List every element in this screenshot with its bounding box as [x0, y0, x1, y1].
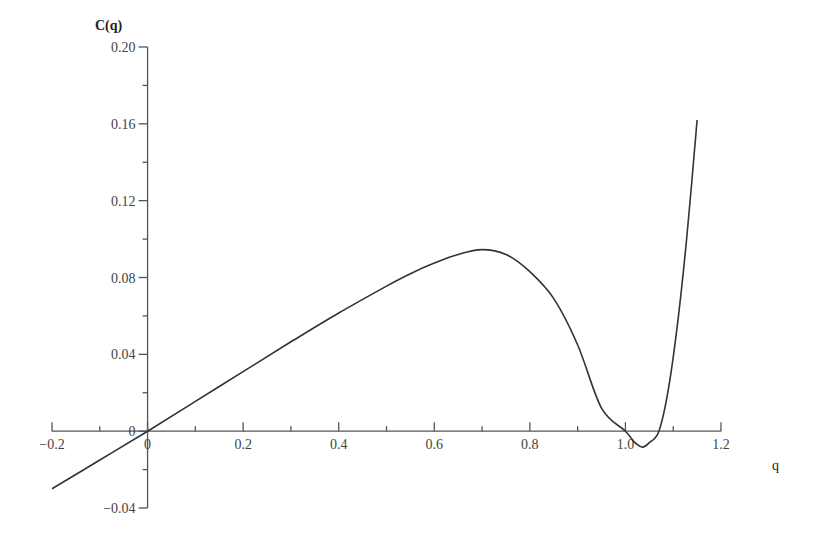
y-axis-title: C(q): [95, 18, 123, 34]
y-tick-label: −0.04: [103, 501, 135, 516]
y-tick-label: 0.16: [111, 117, 136, 132]
x-tick-label: 0.6: [426, 437, 444, 452]
x-tick-label: 0.8: [521, 437, 539, 452]
y-tick-label: 0.08: [111, 271, 136, 286]
x-tick-label: 0: [144, 437, 151, 452]
y-tick-label: 0: [129, 424, 136, 439]
y-tick-label: 0.12: [111, 194, 136, 209]
y-tick-label: 0.20: [111, 40, 136, 55]
x-tick-label: 0.4: [330, 437, 348, 452]
x-axis-title: q: [772, 458, 779, 473]
y-tick-label: 0.04: [111, 347, 136, 362]
x-tick-label: −0.2: [39, 437, 64, 452]
x-tick-label: 1.2: [712, 437, 730, 452]
x-tick-label: 0.2: [234, 437, 252, 452]
series-line-cq: [52, 120, 697, 489]
chart-canvas: −0.200.20.40.60.81.01.2−0.0400.040.080.1…: [0, 0, 815, 536]
